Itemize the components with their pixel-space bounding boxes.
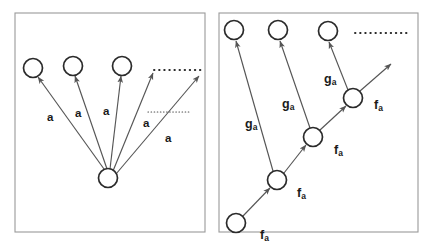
- edge-fa-4: [360, 64, 391, 91]
- label-subscript: a: [253, 122, 258, 132]
- star-topology-panel: [15, 13, 205, 232]
- chain-node-1: [268, 171, 287, 190]
- label-base: g: [324, 72, 332, 86]
- edge-a-2: [75, 76, 107, 169]
- edge-fa-2: [284, 145, 306, 173]
- target-node-2: [64, 57, 83, 76]
- target-node-2: [269, 21, 288, 40]
- edge-a-5: [116, 76, 199, 174]
- edge-label-a-3: a: [103, 106, 109, 118]
- diagram-svg: [0, 0, 432, 250]
- panel-border: [15, 13, 205, 232]
- edge-label-fa-4: fa: [374, 99, 383, 112]
- label-base: g: [282, 97, 290, 111]
- label-base: g: [245, 117, 253, 131]
- edge-label-fa-1: fa: [260, 229, 269, 242]
- chain-node-2: [304, 128, 323, 147]
- label-subscript: a: [264, 233, 269, 243]
- edge-label-a-5: a: [165, 133, 171, 145]
- edge-label-ga-3: ga: [324, 73, 336, 86]
- edge-label-a-1: a: [47, 112, 53, 124]
- edge-ga-2: [280, 41, 310, 128]
- diagram-canvas: aaaaafafafafagagaga: [0, 0, 432, 250]
- label-subscript: a: [378, 103, 383, 113]
- chain-node-0: [227, 214, 246, 233]
- edge-fa-3: [320, 106, 346, 130]
- diagram-shapes: [15, 13, 418, 233]
- edge-label-a-4: a: [143, 118, 149, 130]
- target-node-1: [225, 21, 244, 40]
- target-node-3: [113, 57, 132, 76]
- edge-ga-1: [236, 41, 273, 171]
- edge-label-ga-2: ga: [282, 98, 294, 111]
- edge-fa-1: [243, 188, 270, 216]
- target-node-1: [24, 59, 43, 78]
- edge-label-fa-2: fa: [297, 187, 306, 200]
- center-node: [99, 169, 118, 188]
- chain-node-3: [344, 89, 363, 108]
- edge-label-a-2: a: [75, 108, 81, 120]
- edge-label-fa-3: fa: [334, 144, 343, 157]
- label-subscript: a: [301, 191, 306, 201]
- label-subscript: a: [290, 102, 295, 112]
- target-node-3: [319, 22, 338, 41]
- label-subscript: a: [338, 148, 343, 158]
- edge-label-ga-1: ga: [245, 118, 257, 131]
- label-subscript: a: [332, 77, 337, 87]
